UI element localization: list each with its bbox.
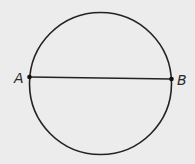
circle <box>30 13 172 155</box>
label-a: A <box>13 70 24 86</box>
label-b: B <box>177 72 187 88</box>
point-a <box>27 75 32 80</box>
diagram-canvas: A B <box>0 0 195 164</box>
segment-ab <box>30 77 172 79</box>
point-b <box>169 77 174 82</box>
